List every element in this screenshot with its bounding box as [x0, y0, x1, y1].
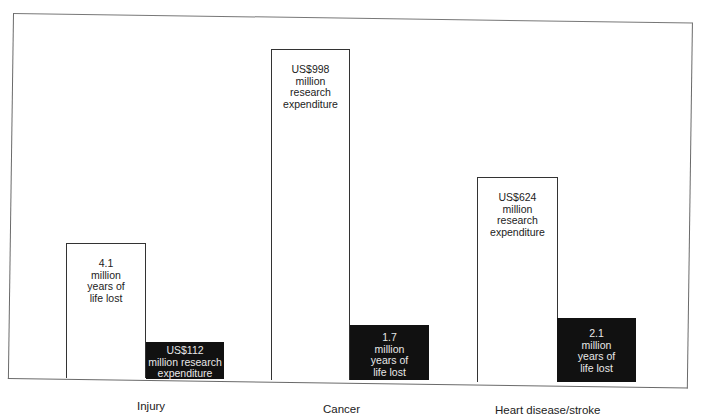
cancer-black-bar: 1.7 million years of life lost: [350, 325, 429, 380]
injury-white-bar: 4.1 million years of life lost: [66, 243, 146, 378]
cancer-white-label: US$998 million research expenditure: [283, 64, 338, 110]
cancer-white-bar: US$998 million research expenditure: [271, 49, 350, 380]
heart-white-label: US$624 million research expenditure: [490, 192, 545, 238]
heart-black-label: 2.1 million years of life lost: [578, 328, 615, 374]
heart-black-bar: 2.1 million years of life lost: [557, 318, 636, 382]
injury-black-bar: US$112 million research expenditure: [146, 342, 224, 379]
injury-black-label: US$112 million research expenditure: [148, 345, 222, 380]
category-label-injury: Injury: [137, 400, 165, 412]
cancer-black-label: 1.7 million years of life lost: [371, 332, 408, 378]
category-label-heart-disease-stroke: Heart disease/stroke: [495, 404, 600, 416]
heart-white-bar: US$624 million research expenditure: [477, 177, 558, 382]
injury-white-label: 4.1 million years of life lost: [87, 258, 124, 304]
category-label-cancer: Cancer: [323, 403, 360, 415]
